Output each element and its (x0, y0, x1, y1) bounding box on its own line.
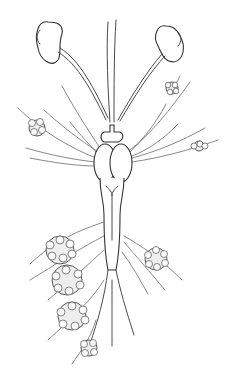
left-club-appendage (36, 22, 108, 120)
trunk (100, 178, 124, 270)
right-club-appendage (118, 26, 183, 121)
egg-cluster-upper-right (165, 82, 179, 95)
egg-cluster-upper-left (29, 119, 46, 137)
egg-cluster-lower-left-3 (57, 302, 89, 330)
head (94, 125, 132, 182)
egg-cluster-mid-right (191, 141, 208, 151)
egg-cluster-bottom (81, 340, 98, 357)
organism-illustration (0, 0, 229, 374)
central-antennae (107, 20, 116, 122)
egg-cluster-lower-left-2 (52, 265, 84, 295)
egg-cluster-lower-right (145, 247, 169, 271)
egg-cluster-lower-left-1 (46, 236, 76, 264)
